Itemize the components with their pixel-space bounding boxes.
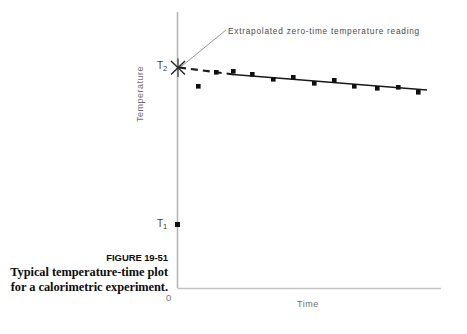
data-point (312, 81, 317, 86)
y-tick-label-t2: T2 (157, 60, 167, 73)
data-point (375, 86, 380, 91)
extrapolation-dashed-line (179, 68, 234, 75)
data-point (271, 77, 276, 82)
axis-origin-label: 0 (166, 292, 171, 303)
y-axis-label: Temperature (135, 66, 145, 122)
figure-root: FIGURE 19-51 Typical temperature-time pl… (0, 0, 467, 334)
data-point (332, 78, 337, 83)
annotation-extrapolated-reading: Extrapolated zero-time temperature readi… (228, 26, 420, 36)
data-point (250, 72, 255, 77)
annotation-leader-line (180, 30, 226, 68)
y-tick-label-t1-subscript: 1 (163, 222, 167, 231)
data-point (291, 75, 296, 80)
initial-temperature-point (175, 222, 180, 227)
y-tick-label-t1: T1 (157, 218, 167, 231)
data-point (231, 69, 236, 74)
x-axis-label: Time (297, 299, 319, 309)
chart-plot-area: Extrapolated zero-time temperature readi… (0, 0, 467, 334)
data-point (396, 85, 401, 90)
data-point (416, 90, 421, 95)
chart-svg (0, 0, 467, 334)
data-point (214, 70, 219, 75)
y-tick-label-t2-subscript: 2 (163, 64, 167, 73)
data-point (352, 84, 357, 89)
data-point-group (196, 69, 421, 95)
data-point (196, 84, 201, 89)
